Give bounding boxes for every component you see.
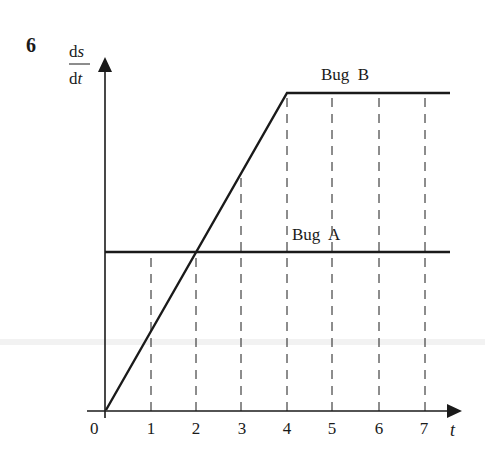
x-tick-3: 3 [238, 419, 247, 438]
scan-artifact [0, 339, 485, 345]
dashed-gridlines [151, 97, 425, 411]
x-tick-6: 6 [375, 419, 384, 438]
x-tick-7: 7 [420, 419, 429, 438]
y-axis-label-numerator: ds [69, 42, 85, 61]
origin-label: 0 [90, 419, 99, 438]
question-number: 6 [26, 34, 36, 56]
x-axis-label: t [450, 420, 456, 440]
x-tick-2: 2 [192, 419, 201, 438]
bug-a-label: Bug A [292, 225, 341, 244]
x-tick-5: 5 [328, 419, 337, 438]
x-tick-4: 4 [283, 419, 292, 438]
x-tick-labels: 1 2 3 4 5 6 7 [147, 419, 429, 438]
x-axis-arrow-icon [447, 404, 462, 418]
y-axis-label-denominator: dt [69, 69, 84, 88]
x-tick-1: 1 [147, 419, 156, 438]
bug-b-label: Bug B [321, 65, 369, 84]
y-axis-arrow-icon [98, 57, 112, 72]
velocity-time-chart: 6 ds dt Bug B Bug A 0 1 2 3 4 5 6 7 t [0, 0, 485, 462]
